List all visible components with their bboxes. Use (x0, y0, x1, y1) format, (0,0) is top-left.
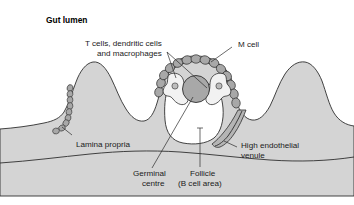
label-follicle-line1: Follicle (190, 169, 216, 178)
label-follicle-line2: (B cell area) (178, 179, 222, 188)
m-cell (191, 55, 201, 63)
label-germinal-line1: Germinal (133, 169, 166, 178)
leader-m-cell (211, 47, 232, 62)
label-t-cells-line1: T cells, dendritic cells (85, 39, 162, 48)
label-hev-line1: High endothelial (241, 141, 299, 150)
label-lamina-propria: Lamina propria (76, 140, 130, 149)
label-t-cells-line2: and macrophages (97, 49, 162, 58)
macrophage-cell-right-nucleus (216, 83, 222, 89)
dendritic-cell-left-nucleus (172, 83, 178, 89)
label-hev-line2: venule (241, 151, 265, 160)
figure-container: Gut lumen T cells, dendritic cells and m… (0, 0, 354, 205)
label-germinal-line2: centre (142, 179, 165, 188)
label-gut-lumen: Gut lumen (46, 15, 87, 25)
germinal-centre-group (183, 76, 210, 103)
label-m-cell: M cell (238, 40, 259, 49)
gut-mucosa-diagram: Gut lumen T cells, dendritic cells and m… (0, 0, 354, 205)
germinal-centre (183, 76, 210, 103)
